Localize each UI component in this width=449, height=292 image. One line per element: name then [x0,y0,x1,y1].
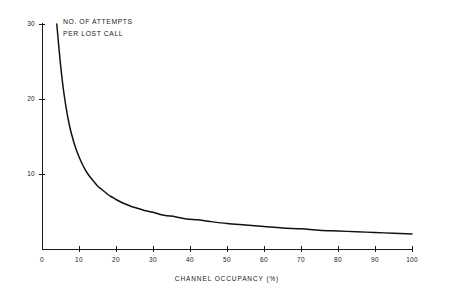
axes-group [42,23,412,249]
data-series-group [57,24,412,234]
y-tick-label: 10 [27,170,35,177]
y-tick-label: 20 [27,95,35,102]
x-tick-label: 50 [223,256,231,263]
series-note-line-1: NO. OF ATTEMPTS [63,18,133,25]
series-annotation: NO. OF ATTEMPTS PER LOST CALL [63,18,133,37]
x-tick-label: 80 [334,256,342,263]
data-curve-attempts-per-lost-call [57,24,412,234]
x-tick-label: 70 [297,256,305,263]
x-tick-label: 30 [149,256,157,263]
x-tick-label: 20 [112,256,120,263]
series-note-line-2: PER LOST CALL [63,30,123,37]
x-tick-label: 10 [75,256,83,263]
y-tick-label: 30 [27,20,35,27]
chart-canvas: 0102030405060708090100 102030 NO. OF ATT… [0,0,449,292]
x-tick-label: 60 [260,256,268,263]
x-tick-label: 0 [40,256,44,263]
x-tick-label: 100 [406,256,418,263]
chart-page: 0102030405060708090100 102030 NO. OF ATT… [0,0,449,292]
x-tick-label: 40 [186,256,194,263]
x-tick-label: 90 [371,256,379,263]
x-axis-title: CHANNEL OCCUPANCY (%) [175,275,279,283]
